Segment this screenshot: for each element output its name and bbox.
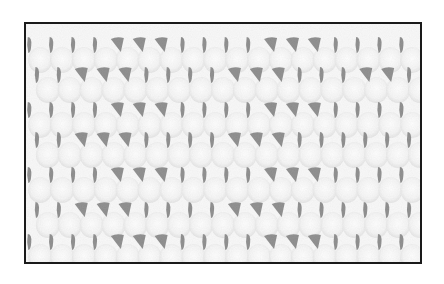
crochet-swatch-image [26,24,420,262]
photo-frame [24,22,422,264]
